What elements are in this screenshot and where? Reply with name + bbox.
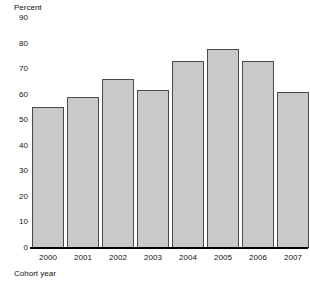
bar-chart-figure: Percent 90 80 70 60 50 40 30 20 10 0 (0, 0, 310, 290)
bar-2000 (32, 107, 64, 248)
x-axis-title: Cohort year (14, 269, 56, 279)
bar-2002 (102, 79, 134, 248)
bar-2006 (242, 61, 274, 248)
bar-slot (207, 49, 239, 248)
x-axis-tick-label: 2006 (238, 253, 278, 262)
x-axis-tick-label: 2003 (133, 253, 173, 262)
y-axis-tick-label: 20 (12, 193, 28, 201)
x-axis-tick-label: 2007 (273, 253, 310, 262)
bar-2007 (277, 92, 309, 248)
bar-2005 (207, 49, 239, 248)
bar-slot (172, 61, 204, 248)
y-axis-tick-label: 0 (12, 244, 28, 252)
x-axis-tick-label: 2005 (203, 253, 243, 262)
bar-slot (32, 107, 64, 248)
bar-slot (102, 79, 134, 248)
x-axis-tick-label: 2001 (63, 253, 103, 262)
y-axis-tick-label: 40 (12, 142, 28, 150)
y-axis-tick-label: 30 (12, 167, 28, 175)
x-axis-tick-label: 2000 (28, 253, 68, 262)
bar-slot (67, 97, 99, 248)
bar-2001 (67, 97, 99, 248)
y-axis-tick-label: 50 (12, 116, 28, 124)
x-axis-tick-label: 2002 (98, 253, 138, 262)
y-axis-tick-labels: 90 80 70 60 50 40 30 20 10 0 (12, 0, 28, 290)
bar-2004 (172, 61, 204, 248)
x-axis-line (30, 247, 308, 249)
y-axis-tick-label: 80 (12, 40, 28, 48)
plot-area (32, 18, 308, 248)
y-axis-tick-label: 70 (12, 65, 28, 73)
x-axis-tick-label: 2004 (168, 253, 208, 262)
y-axis-tick-label: 90 (12, 14, 28, 22)
y-axis-tick-label: 60 (12, 91, 28, 99)
bar-slot (242, 61, 274, 248)
bar-slot (137, 90, 169, 248)
y-axis-tick-label: 10 (12, 218, 28, 226)
bar-2003 (137, 90, 169, 248)
bar-slot (277, 92, 309, 248)
